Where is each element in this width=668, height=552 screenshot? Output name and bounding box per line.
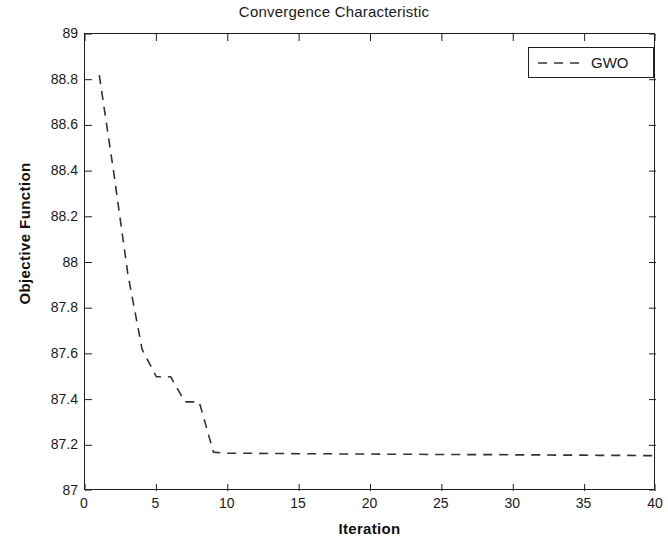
x-tick-label: 5 [125,496,185,510]
x-axis-tick-labels: 0510152025303540 [0,496,668,520]
y-tick-label: 87.6 [8,346,78,360]
x-tick-label: 30 [482,496,542,510]
y-tick-label: 88.8 [8,72,78,86]
plot-area [84,33,655,490]
chart-legend: GWO [528,47,654,78]
legend-line-sample-gwo [537,57,585,69]
axis-tick-marks [85,34,656,491]
y-axis-tick-labels: 8787.287.487.687.88888.288.488.688.889 [6,0,78,552]
y-tick-label: 88.2 [8,209,78,223]
y-tick-label: 87.2 [8,437,78,451]
x-tick-label: 35 [554,496,614,510]
legend-label-gwo: GWO [591,55,629,70]
y-tick-label: 87.4 [8,392,78,406]
convergence-chart-figure: Convergence Characteristic Objective Fun… [0,0,668,552]
plot-canvas [85,34,656,491]
chart-title: Convergence Characteristic [0,3,668,20]
y-tick-label: 88.6 [8,117,78,131]
y-tick-label: 88 [8,255,78,269]
x-tick-label: 10 [197,496,257,510]
y-tick-label: 88.4 [8,163,78,177]
x-axis-label: Iteration [84,520,655,537]
x-tick-label: 15 [268,496,328,510]
x-tick-label: 0 [54,496,114,510]
x-tick-label: 25 [411,496,471,510]
y-tick-label: 89 [8,26,78,40]
x-tick-label: 40 [625,496,668,510]
y-tick-label: 87.8 [8,300,78,314]
data-series-gwo [99,75,656,455]
y-tick-label: 87 [8,483,78,497]
x-tick-label: 20 [340,496,400,510]
